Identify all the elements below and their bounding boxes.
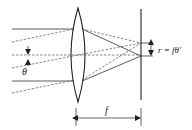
ray-bottom-refracted <box>82 56 141 81</box>
angle-theta-label: θ <box>22 66 27 77</box>
refracted-dashed-rays <box>78 29 141 80</box>
radius-bracket <box>141 43 153 56</box>
tilted-ray-top-refracted <box>82 29 141 43</box>
lens-focal-plane-diagram: r = fθ′ θ f <box>0 0 192 130</box>
focal-length-label: f <box>105 105 109 116</box>
biconvex-lens <box>71 8 85 102</box>
incoming-tilted-rays <box>12 29 78 93</box>
radius-formula-label: r = fθ′ <box>158 45 182 55</box>
tilted-ray-top <box>12 29 74 42</box>
tilted-ray-bottom <box>12 80 74 93</box>
focal-length-dimension <box>76 108 141 126</box>
ray-top-refracted <box>82 29 141 56</box>
